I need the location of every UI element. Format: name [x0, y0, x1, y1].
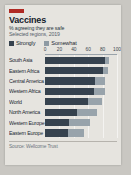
chart-row: Western Europe	[9, 117, 117, 127]
bar-segment-strongly	[45, 88, 94, 95]
chart-row: World	[9, 97, 117, 107]
stacked-bar	[45, 88, 105, 95]
bar-track	[45, 128, 117, 138]
x-tick-label: 60	[86, 47, 91, 52]
chart-row: North America	[9, 107, 117, 117]
stacked-bar	[45, 77, 105, 84]
bar-segment-strongly	[45, 67, 103, 74]
bar-segment-strongly	[45, 57, 105, 64]
x-axis-ticks: 020406080100	[45, 47, 117, 54]
chart-card: Vaccines % agreeing they are safe Select…	[5, 5, 121, 165]
category-label: World	[9, 99, 45, 105]
bar-segment-somewhat	[77, 109, 97, 116]
bar-track	[45, 86, 117, 96]
bar-track	[45, 76, 117, 86]
bar-segment-strongly	[45, 119, 69, 126]
legend-label-somewhat: Somewhat	[51, 40, 76, 46]
bar-track	[45, 55, 117, 65]
x-tick-label: 80	[100, 47, 105, 52]
gridline	[117, 76, 118, 86]
stacked-bar	[45, 67, 108, 74]
gridline	[117, 128, 118, 138]
chart-subtitle-secondary: Selected regions, 2019	[9, 31, 117, 37]
stacked-bar	[45, 109, 97, 116]
chart-row: South Asia	[9, 55, 117, 65]
gridline	[103, 128, 104, 138]
chart-row: Western Africa	[9, 86, 117, 96]
bar-chart: 020406080100 South AsiaEastern AfricaCen…	[9, 47, 117, 138]
category-label: Western Africa	[9, 88, 45, 94]
page-title: Vaccines	[9, 15, 117, 25]
chart-legend: Strongly Somewhat	[9, 40, 117, 46]
category-label: Eastern Africa	[9, 68, 45, 74]
legend-label-strongly: Strongly	[16, 40, 35, 46]
bar-segment-somewhat	[68, 129, 84, 136]
gridline	[103, 107, 104, 117]
gridline	[117, 65, 118, 75]
bar-track	[45, 117, 117, 127]
x-tick-label: 20	[57, 47, 62, 52]
legend-item-somewhat: Somewhat	[44, 40, 76, 46]
bar-segment-somewhat	[69, 119, 89, 126]
chart-rows: South AsiaEastern AfricaCentral AmericaW…	[9, 55, 117, 138]
gridline	[88, 128, 89, 138]
gridline	[117, 97, 118, 107]
bar-track	[45, 107, 117, 117]
chart-row: Eastern Africa	[9, 65, 117, 75]
gridline	[103, 117, 104, 127]
bar-track	[45, 97, 117, 107]
bar-segment-strongly	[45, 109, 77, 116]
gridline	[103, 97, 104, 107]
gridline	[117, 86, 118, 96]
stacked-bar	[45, 57, 109, 64]
x-tick-label: 0	[44, 47, 47, 52]
bar-segment-somewhat	[88, 98, 102, 105]
bar-segment-strongly	[45, 98, 88, 105]
bar-segment-somewhat	[94, 88, 105, 95]
gridline	[117, 107, 118, 117]
chart-row: Eastern Europe	[9, 128, 117, 138]
legend-swatch-icon	[9, 41, 14, 46]
legend-item-strongly: Strongly	[9, 40, 35, 46]
bar-segment-somewhat	[95, 77, 105, 84]
category-label: South Asia	[9, 57, 45, 63]
category-label: Central America	[9, 78, 45, 84]
category-label: North America	[9, 109, 45, 115]
brand-mark-icon	[9, 9, 24, 13]
x-tick-label: 40	[71, 47, 76, 52]
x-tick-label: 100	[113, 47, 121, 52]
category-label: Eastern Europe	[9, 130, 45, 136]
bar-segment-somewhat	[105, 57, 109, 64]
bar-segment-strongly	[45, 129, 68, 136]
bar-segment-somewhat	[103, 67, 108, 74]
gridline	[117, 117, 118, 127]
gridline	[117, 55, 118, 65]
legend-swatch-icon	[44, 41, 49, 46]
bar-segment-strongly	[45, 77, 95, 84]
source-note: Source: Wellcome Trust	[9, 144, 117, 149]
stacked-bar	[45, 98, 102, 105]
category-label: Western Europe	[9, 120, 45, 126]
bar-track	[45, 65, 117, 75]
stacked-bar	[45, 129, 84, 136]
stacked-bar	[45, 119, 90, 126]
chart-row: Central America	[9, 76, 117, 86]
footer-divider	[9, 141, 117, 142]
